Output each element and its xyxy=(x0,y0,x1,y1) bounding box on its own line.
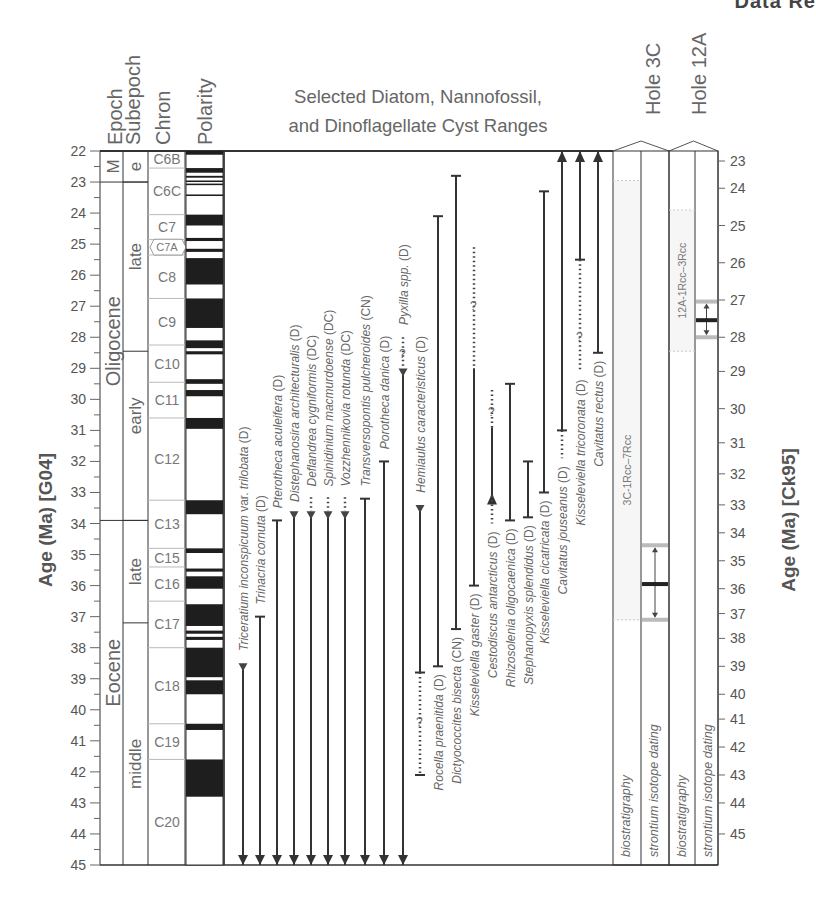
left-axis-tick-label: 26 xyxy=(70,267,86,283)
subepoch-label: early xyxy=(126,397,145,434)
arrow-up-icon xyxy=(557,151,567,162)
right-axis-tick-label: 38 xyxy=(730,630,746,646)
polarity-normal-interval xyxy=(186,238,223,241)
sr-range-edge xyxy=(696,335,717,339)
species-label: Cavitatus jouseanus (D) xyxy=(556,466,570,594)
uncertainty-question-mark: ? xyxy=(416,715,423,729)
uncertainty-question-mark: ? xyxy=(488,405,495,419)
sr-range-edge xyxy=(642,543,668,547)
polarity-normal-interval xyxy=(186,351,223,354)
right-axis-label: Age (Ma) [Ck95] xyxy=(778,448,799,592)
hole-header-chevron xyxy=(669,141,718,151)
right-axis-tick-label: 23 xyxy=(730,153,746,169)
arrow-down-icon xyxy=(289,855,299,865)
polarity-normal-interval xyxy=(186,298,223,327)
left-axis-tick-label: 45 xyxy=(70,857,86,873)
uncertainty-question-mark: ? xyxy=(399,347,406,361)
right-axis-tick-label: 30 xyxy=(730,401,746,417)
column-header-hole-3c: Hole 3C xyxy=(642,43,664,115)
subepoch-label: e xyxy=(126,162,145,171)
subepoch-label: middle xyxy=(126,739,145,789)
chron-label: C16 xyxy=(154,576,180,592)
polarity-normal-interval xyxy=(186,648,223,677)
polarity-normal-interval xyxy=(186,184,223,186)
chron-label: C10 xyxy=(154,356,180,372)
left-axis-tick-label: 38 xyxy=(70,640,86,656)
triangle-marker-icon xyxy=(290,511,299,519)
hole-column-label-biostratigraphy: biostratigraphy xyxy=(619,774,633,857)
chart-title-line-1: Selected Diatom, Nannofossil, xyxy=(294,86,542,107)
chron-label: C6C xyxy=(153,183,181,199)
sr-error-cap-icon xyxy=(652,547,658,552)
right-axis-tick-label: 40 xyxy=(730,686,746,702)
species-label: Vozzhennikovia rotunda (DC) xyxy=(339,330,353,486)
arrow-up-icon xyxy=(487,494,497,505)
sr-age-estimate xyxy=(642,582,668,586)
polarity-normal-interval xyxy=(186,168,223,173)
right-axis-tick-label: 34 xyxy=(730,525,746,541)
sr-error-cap-icon xyxy=(704,304,710,309)
species-label: Kisseleviella gaster (D) xyxy=(468,594,482,717)
sr-range-edge xyxy=(696,300,717,304)
arrow-down-icon xyxy=(272,855,282,865)
hole-header-chevron xyxy=(613,141,669,151)
sr-error-cap-icon xyxy=(652,613,658,618)
species-label: Spinidinium macmurdoense (DC) xyxy=(322,310,336,487)
uncertainty-question-mark: ? xyxy=(576,330,583,344)
polarity-normal-interval xyxy=(186,151,223,155)
species-label: Triceratium inconspicuum var. trilobata … xyxy=(237,426,251,651)
uncertainty-question-mark: ? xyxy=(470,299,477,313)
polarity-normal-interval xyxy=(186,418,223,429)
hole-column-label-strontium: strontium isotope dating xyxy=(647,724,661,857)
arrow-down-icon xyxy=(340,855,350,865)
polarity-normal-interval xyxy=(186,340,223,348)
left-axis-tick-label: 22 xyxy=(70,143,86,159)
subepoch-label: late xyxy=(126,558,145,585)
polarity-normal-interval xyxy=(186,548,223,553)
triangle-marker-icon xyxy=(341,511,350,519)
biostratigraphy-range xyxy=(614,180,640,619)
triangle-marker-icon xyxy=(399,368,408,376)
species-label: Pyxilla spp. (D) xyxy=(397,244,411,325)
chron-label: C13 xyxy=(154,516,180,532)
left-axis-tick-label: 28 xyxy=(70,329,86,345)
right-axis-tick-label: 43 xyxy=(730,767,746,783)
polarity-normal-interval xyxy=(186,604,223,626)
species-label: Cestodiscus antarcticus (D) xyxy=(486,532,500,679)
right-axis-tick-label: 27 xyxy=(730,292,746,308)
left-axis-tick-label: 42 xyxy=(70,764,86,780)
left-axis-label: Age (Ma) [G04] xyxy=(35,453,56,587)
epoch-label: Eocene xyxy=(102,639,124,707)
polarity-normal-interval xyxy=(186,194,223,196)
species-label: Hemiaulus caracteristicus (D) xyxy=(414,336,428,493)
arrow-down-icon xyxy=(255,855,265,865)
column-header-hole-12a: Hole 12A xyxy=(688,32,710,115)
chron-label: C12 xyxy=(154,451,180,467)
triangle-marker-icon xyxy=(416,505,425,513)
species-label: Kisseleviella cicatricata (D) xyxy=(538,500,552,643)
polarity-normal-interval xyxy=(186,180,223,182)
species-label: Distephanosira architecturalis (D) xyxy=(288,325,302,502)
arrow-up-icon xyxy=(593,151,603,162)
chart-title-line-2: and Dinoflagellate Cyst Ranges xyxy=(288,115,547,136)
polarity-normal-interval xyxy=(186,249,223,252)
right-axis-tick-label: 45 xyxy=(730,826,746,842)
polarity-normal-interval xyxy=(186,258,223,284)
polarity-normal-interval xyxy=(186,576,223,588)
polarity-normal-interval xyxy=(186,176,223,178)
left-axis-tick-label: 31 xyxy=(70,422,86,438)
arrow-down-icon xyxy=(323,855,333,865)
polarity-normal-interval xyxy=(186,759,223,796)
species-label: Stephanopyxis splendidus (D) xyxy=(522,525,536,684)
polarity-normal-interval xyxy=(186,637,223,640)
right-axis-tick-label: 29 xyxy=(730,363,746,379)
left-axis-tick-label: 32 xyxy=(70,453,86,469)
arrow-down-icon xyxy=(306,855,316,865)
species-label: Rocella praenitida (D) xyxy=(432,674,446,790)
biostratigraphy-range-label: 12A-1Rcc–3Rcc xyxy=(676,243,688,319)
epoch-label: Oligocene xyxy=(102,296,124,386)
epoch-label: M xyxy=(104,159,123,173)
left-axis-tick-label: 29 xyxy=(70,360,86,376)
chron-label: C20 xyxy=(154,814,180,830)
left-axis-tick-label: 25 xyxy=(70,236,86,252)
